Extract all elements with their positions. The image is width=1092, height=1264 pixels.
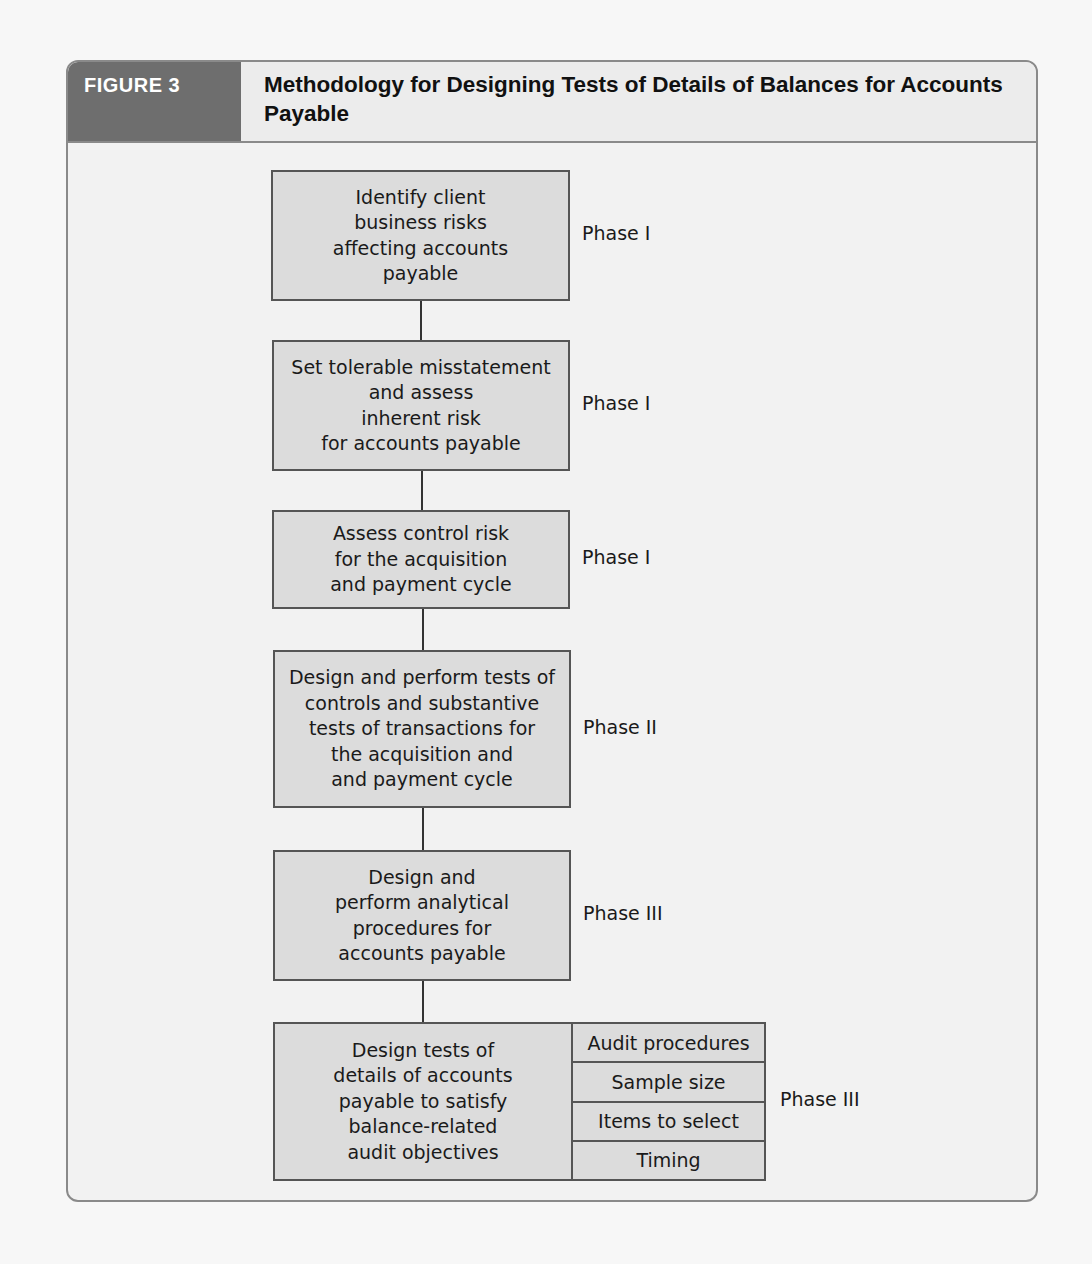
flow-step-6: Design tests of details of accounts paya… bbox=[273, 1022, 573, 1181]
flow-step-3: Assess control risk for the acquisition … bbox=[272, 510, 570, 609]
flow-step-5: Design and perform analytical procedures… bbox=[273, 850, 571, 981]
flow-step-1-text: Identify client business risks affecting… bbox=[333, 185, 508, 287]
subitem-items-to-select: Items to select bbox=[573, 1103, 764, 1142]
connector-1-2 bbox=[420, 301, 422, 341]
phase-label-1: Phase I bbox=[582, 222, 650, 244]
phase-label-5: Phase III bbox=[583, 902, 663, 924]
figure-label: FIGURE 3 bbox=[68, 62, 241, 141]
flow-step-5-text: Design and perform analytical procedures… bbox=[335, 865, 509, 967]
subitem-timing: Timing bbox=[573, 1142, 764, 1179]
flow-step-4-text: Design and perform tests of controls and… bbox=[289, 665, 555, 793]
phase-label-6: Phase III bbox=[780, 1088, 860, 1110]
flow-step-6-text: Design tests of details of accounts paya… bbox=[333, 1038, 512, 1166]
flow-step-1: Identify client business risks affecting… bbox=[271, 170, 570, 301]
subitem-audit-procedures: Audit procedures bbox=[573, 1024, 764, 1063]
figure-header: FIGURE 3 Methodology for Designing Tests… bbox=[68, 62, 1036, 143]
flow-step-6-subitems: Audit procedures Sample size Items to se… bbox=[571, 1022, 766, 1181]
connector-4-5 bbox=[422, 808, 424, 851]
phase-label-4: Phase II bbox=[583, 716, 657, 738]
connector-3-4 bbox=[422, 609, 424, 651]
flow-step-3-text: Assess control risk for the acquisition … bbox=[330, 521, 512, 598]
connector-2-3 bbox=[421, 471, 423, 511]
connector-5-6 bbox=[422, 981, 424, 1023]
flow-step-2-text: Set tolerable misstatement and assess in… bbox=[291, 355, 550, 457]
flow-step-2: Set tolerable misstatement and assess in… bbox=[272, 340, 570, 471]
phase-label-2: Phase I bbox=[582, 392, 650, 414]
subitem-sample-size: Sample size bbox=[573, 1063, 764, 1102]
phase-label-3: Phase I bbox=[582, 546, 650, 568]
flow-step-4: Design and perform tests of controls and… bbox=[273, 650, 571, 808]
figure-title: Methodology for Designing Tests of Detai… bbox=[264, 70, 1004, 128]
